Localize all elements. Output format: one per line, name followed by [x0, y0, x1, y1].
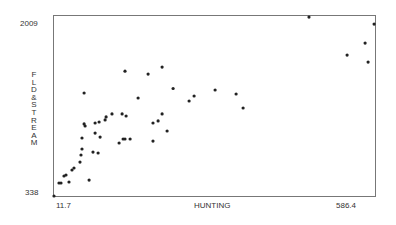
data-point: [188, 99, 191, 102]
data-point: [72, 166, 75, 169]
data-point: [105, 115, 108, 118]
data-point: [99, 136, 102, 139]
data-point: [151, 121, 154, 124]
data-point: [129, 137, 132, 140]
data-point: [79, 153, 82, 156]
data-point: [123, 137, 126, 140]
data-point: [88, 179, 91, 182]
data-point: [123, 70, 126, 73]
data-point: [242, 106, 245, 109]
data-point: [137, 96, 140, 99]
data-point: [307, 16, 310, 19]
data-point: [52, 194, 55, 197]
data-point: [118, 141, 121, 144]
data-point: [94, 132, 97, 135]
data-point: [157, 119, 160, 122]
data-point: [147, 73, 150, 76]
data-point: [193, 94, 196, 97]
data-point: [235, 92, 238, 95]
data-point: [97, 151, 100, 154]
data-point: [59, 181, 62, 184]
data-point: [125, 114, 128, 117]
scatter-points: [0, 0, 396, 225]
data-point: [78, 161, 81, 164]
data-point: [110, 112, 113, 115]
data-point: [84, 124, 87, 127]
data-point: [161, 112, 164, 115]
data-point: [214, 88, 217, 91]
data-point: [64, 173, 67, 176]
data-point: [161, 66, 164, 69]
data-point: [367, 61, 370, 64]
data-point: [80, 147, 83, 150]
data-point: [104, 118, 107, 121]
data-point: [166, 129, 169, 132]
data-point: [346, 54, 349, 57]
data-point: [80, 136, 83, 139]
data-point: [172, 87, 175, 90]
data-point: [94, 121, 97, 124]
data-point: [151, 140, 154, 143]
data-point: [67, 180, 70, 183]
data-point: [373, 23, 376, 26]
data-point: [83, 91, 86, 94]
data-point: [98, 120, 101, 123]
data-point: [91, 151, 94, 154]
data-point: [364, 42, 367, 45]
data-point: [121, 112, 124, 115]
